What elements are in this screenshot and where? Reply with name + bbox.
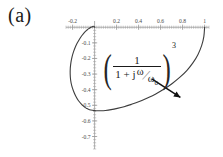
figure-panel: (a) -0.20.20.40.60.81-0.1-0.2-0.3-0.4-0.… — [0, 0, 223, 157]
x-tick-label: 1 — [203, 18, 206, 24]
x-tick-label: 0.8 — [179, 18, 186, 24]
axes-group: -0.20.20.40.60.81-0.1-0.2-0.3-0.4-0.5-0.… — [66, 18, 209, 149]
y-tick-label: -0.1 — [82, 40, 91, 46]
y-tick-label: -0.6 — [82, 118, 91, 124]
nyquist-plot: -0.20.20.40.60.81-0.1-0.2-0.3-0.4-0.5-0.… — [0, 0, 223, 157]
x-tick-label: 0.6 — [157, 18, 164, 24]
x-tick-label: -0.2 — [68, 18, 77, 24]
arrow-head — [173, 91, 180, 97]
arrow-annotation-arrow — [152, 79, 181, 98]
y-tick-label: -0.2 — [82, 55, 91, 61]
x-tick-label: 0.2 — [113, 18, 120, 24]
y-tick-label: -0.7 — [82, 134, 91, 140]
x-tick-label: 0.4 — [135, 18, 142, 24]
y-tick-label: -0.4 — [82, 87, 91, 93]
y-tick-label: -0.3 — [82, 71, 91, 77]
